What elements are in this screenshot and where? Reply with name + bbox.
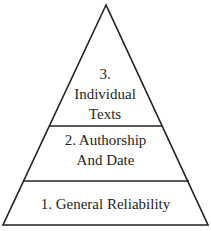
tier-3-number: 3. [55, 64, 155, 84]
tier-3-line-2: Texts [55, 104, 155, 124]
tier-1-label: 1. General Reliability [20, 194, 191, 214]
tier-1-line-1: 1. General Reliability [20, 194, 191, 214]
tier-3-line-1: Individual [55, 84, 155, 104]
tier-2-label: 2. Authorship And Date [40, 130, 171, 170]
tier-2-line-1: 2. Authorship [40, 130, 171, 150]
tier-2-line-2: And Date [40, 150, 171, 170]
tier-3-label: 3. Individual Texts [55, 64, 155, 124]
